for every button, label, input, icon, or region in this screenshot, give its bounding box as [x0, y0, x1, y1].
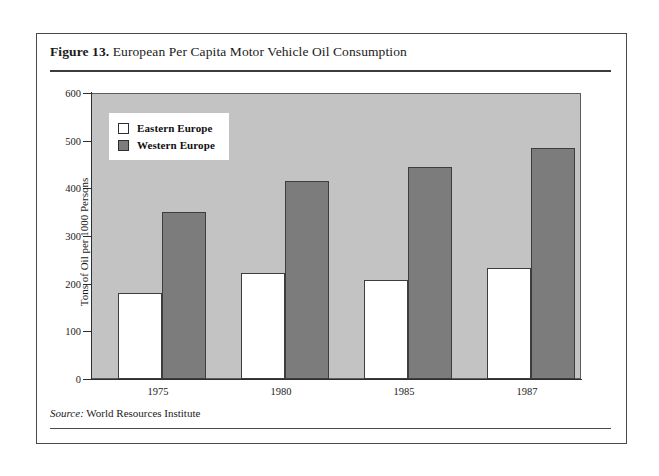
- bar-western-1980[interactable]: [285, 181, 329, 379]
- y-axis-title: Tons of Oil per 1000 Persons: [78, 112, 90, 372]
- legend-swatch-western-icon: [118, 140, 129, 151]
- y-tick-label-100: 100: [37, 326, 81, 337]
- source-text: World Resources Institute: [84, 407, 201, 419]
- y-tick-600: [83, 93, 91, 94]
- x-tick-label-1975: 1975: [118, 386, 198, 397]
- y-tick-label-600: 600: [37, 88, 81, 99]
- bar-eastern-1985[interactable]: [364, 280, 408, 379]
- chart-legend: Eastern Europe Western Europe: [109, 113, 229, 160]
- source-divider: [50, 428, 611, 429]
- chart-plot: 0 100 200 300 400 500 600 Tons of Oil pe…: [37, 34, 628, 445]
- bar-western-1987[interactable]: [531, 148, 575, 379]
- legend-label-western: Western Europe: [137, 139, 215, 151]
- x-tick-label-1980: 1980: [241, 386, 321, 397]
- legend-item-eastern[interactable]: Eastern Europe: [118, 120, 215, 136]
- legend-swatch-eastern-icon: [118, 123, 129, 134]
- y-tick-label-0: 0: [37, 374, 81, 385]
- bar-western-1975[interactable]: [162, 212, 206, 379]
- y-tick-label-500: 500: [37, 136, 81, 147]
- y-tick-label-300: 300: [37, 231, 81, 242]
- bar-eastern-1980[interactable]: [241, 273, 285, 379]
- source-note: Source: World Resources Institute: [50, 407, 200, 419]
- bar-western-1985[interactable]: [408, 167, 452, 379]
- bars-container: [91, 34, 581, 445]
- x-tick-label-1985: 1985: [364, 386, 444, 397]
- bar-eastern-1975[interactable]: [118, 293, 162, 379]
- legend-label-eastern: Eastern Europe: [137, 122, 212, 134]
- figure-frame: Figure 13. European Per Capita Motor Veh…: [36, 33, 627, 444]
- y-tick-0: [83, 379, 91, 380]
- x-tick-label-1987: 1987: [487, 386, 567, 397]
- y-tick-label-200: 200: [37, 279, 81, 290]
- source-label: Source:: [50, 407, 84, 419]
- y-tick-label-400: 400: [37, 183, 81, 194]
- legend-item-western[interactable]: Western Europe: [118, 137, 215, 153]
- bar-eastern-1987[interactable]: [487, 268, 531, 379]
